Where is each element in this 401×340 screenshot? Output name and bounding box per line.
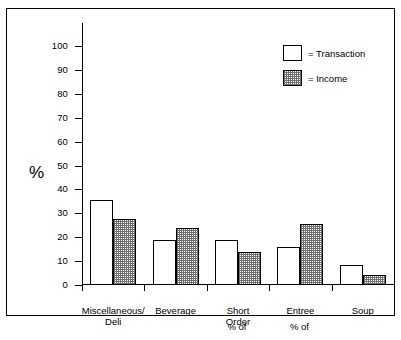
bar-transaction-4 [340, 265, 363, 285]
bar-transaction-0 [90, 200, 113, 285]
bar-income-1 [176, 228, 199, 285]
category-label-line1: Soup [315, 305, 401, 316]
y-tick-label-40: 40 [34, 184, 68, 194]
footer-note-0: % of [207, 321, 267, 332]
footer-note-1: % of [269, 321, 329, 332]
y-tick-label-70: 70 [34, 113, 68, 123]
y-tick-30 [75, 213, 82, 214]
y-tick-label-30: 30 [34, 208, 68, 218]
plot-area: 1009080706050403020100 Miscellaneous/Del… [82, 23, 394, 285]
x-tick-3 [269, 285, 270, 291]
y-tick-80 [75, 94, 82, 95]
chart-outer-frame: % = Transaction = Income 100908070605040… [6, 8, 395, 316]
bar-income-3 [300, 224, 323, 285]
y-tick-0 [75, 285, 82, 286]
y-tick-label-90: 90 [34, 65, 68, 75]
y-tick-50 [75, 166, 82, 167]
bar-income-0 [113, 219, 136, 285]
bar-transaction-2 [215, 240, 238, 285]
y-tick-100 [75, 46, 82, 47]
y-tick-label-60: 60 [34, 137, 68, 147]
bar-income-4 [363, 275, 386, 285]
category-label-4: Soup [315, 305, 401, 316]
bar-transaction-3 [277, 247, 300, 285]
x-tick-end [394, 285, 395, 291]
y-tick-label-50: 50 [34, 161, 68, 171]
y-tick-10 [75, 261, 82, 262]
y-tick-label-0: 0 [34, 280, 68, 290]
y-tick-40 [75, 189, 82, 190]
y-axis-line [82, 23, 83, 285]
y-tick-label-20: 20 [34, 232, 68, 242]
y-tick-60 [75, 142, 82, 143]
y-tick-90 [75, 70, 82, 71]
x-tick-2 [207, 285, 208, 291]
category-label-line2: Deli [65, 316, 161, 327]
bar-income-2 [238, 252, 261, 285]
y-tick-label-100: 100 [34, 41, 68, 51]
x-tick-0 [82, 285, 83, 291]
y-tick-70 [75, 118, 82, 119]
bar-transaction-1 [153, 240, 176, 285]
y-tick-label-80: 80 [34, 89, 68, 99]
x-tick-1 [144, 285, 145, 291]
y-tick-label-10: 10 [34, 256, 68, 266]
x-tick-4 [332, 285, 333, 291]
y-tick-20 [75, 237, 82, 238]
